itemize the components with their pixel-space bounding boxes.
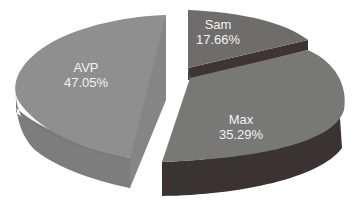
pie-chart: AVP 47.05% Sam 17.66% Max 35.29% [0, 0, 361, 211]
slice-avp [15, 15, 166, 188]
label-avp-name: AVP [46, 60, 126, 75]
label-max-pct: 35.29% [201, 127, 281, 142]
label-sam: Sam 17.66% [178, 17, 258, 47]
label-sam-name: Sam [178, 17, 258, 32]
label-max: Max 35.29% [201, 112, 281, 142]
label-avp-pct: 47.05% [46, 75, 126, 90]
label-sam-pct: 17.66% [178, 32, 258, 47]
label-avp: AVP 47.05% [46, 60, 126, 90]
label-max-name: Max [201, 112, 281, 127]
